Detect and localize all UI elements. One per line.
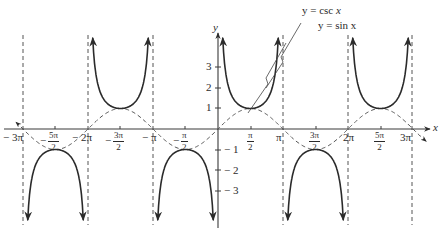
cosecant-branch	[288, 150, 344, 221]
x-tick-label-neg-pi: − π	[142, 132, 157, 143]
legend-sin: y = sin x	[318, 20, 356, 31]
y-tick-label-1: 1	[206, 102, 212, 113]
cosecant-branch	[28, 150, 84, 221]
x-tick-label-neg-5pi-2: −5π2	[48, 131, 59, 152]
x-tick-label-3pi-2: 3π2	[309, 131, 320, 152]
x-tick-label-5pi-2: 5π2	[374, 131, 385, 152]
x-tick-label-neg-3pi: − 3π	[3, 132, 23, 143]
y-tick-label-2: 2	[206, 82, 212, 93]
annotation-leaders	[248, 23, 301, 113]
y-tick-label-neg-1: − 1	[224, 144, 238, 155]
y-tick-label-neg-2: − 2	[224, 165, 238, 176]
x-tick-label-2pi: 2π	[343, 132, 354, 143]
x-axis-label: x	[433, 122, 438, 133]
y-tick-label-3: 3	[206, 61, 212, 72]
cosecant-branch	[353, 38, 409, 109]
y-axis-label: y	[213, 22, 218, 33]
y-tick-label-neg-3: − 3	[224, 185, 238, 196]
csc-sin-plot	[0, 0, 441, 234]
cosecant-branch	[223, 38, 279, 109]
legend-csc-var: x	[336, 4, 341, 16]
cosecant-branch	[93, 38, 149, 109]
legend-csc: y = csc x	[302, 5, 341, 16]
legend-csc-prefix: y = csc	[302, 4, 336, 16]
x-tick-label-pi-2: π2	[247, 131, 254, 152]
x-tick-label-neg-pi-2: −π2	[181, 131, 188, 152]
x-tick-label-neg-3pi-2: −3π2	[113, 131, 124, 152]
x-tick-label-3pi: 3π	[400, 132, 411, 143]
cosecant-branch	[158, 150, 214, 221]
x-tick-label-pi: π	[276, 132, 282, 143]
x-tick-label-neg-2pi: − 2π	[72, 132, 92, 143]
